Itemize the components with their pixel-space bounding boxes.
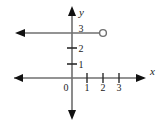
x-tick-label-1: 1: [85, 82, 90, 93]
y-tick-label-1: 1: [79, 59, 84, 70]
x-tick-label-2: 2: [101, 82, 106, 93]
x-tick-label-3: 3: [117, 82, 122, 93]
x-axis-left-arrowhead: [14, 74, 23, 82]
graph-figure: y x 0 1 2 3 1 2 3: [0, 0, 168, 123]
constant-function-ray: [15, 29, 106, 37]
origin-label: 0: [64, 82, 69, 93]
y-axis-up-arrowhead: [68, 6, 76, 16]
x-axis-right-arrowhead: [136, 74, 146, 82]
y-tick-label-3: 3: [79, 23, 84, 34]
x-axis-label: x: [149, 65, 155, 77]
y-axis-label: y: [78, 6, 84, 18]
coordinate-plane-svg: y x 0 1 2 3 1 2 3: [0, 0, 168, 123]
y-axis: [68, 6, 76, 120]
open-circle-endpoint: [100, 30, 107, 37]
x-axis: [14, 74, 146, 82]
ray-left-arrowhead: [15, 29, 25, 37]
y-tick-label-2: 2: [79, 43, 84, 54]
y-axis-down-arrowhead: [68, 110, 76, 120]
